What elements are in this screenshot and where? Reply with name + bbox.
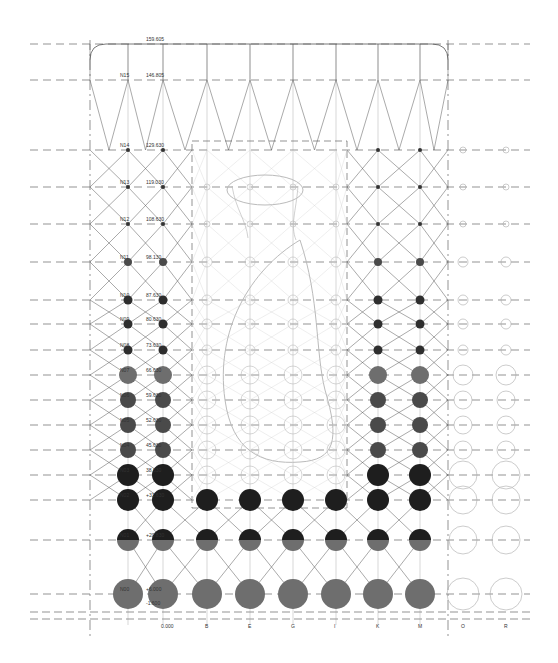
- column-node: [405, 579, 435, 609]
- half-node-bottom: [367, 540, 389, 551]
- level-elevation-label: 146.805: [146, 72, 164, 78]
- column-node: [126, 185, 130, 189]
- level-name-label: N10: [120, 292, 129, 298]
- column-node: [376, 222, 380, 226]
- level-name-label: N04: [120, 442, 129, 448]
- column-node: [416, 346, 425, 355]
- column-node: [325, 489, 347, 511]
- crown-triangle: [250, 80, 293, 150]
- diagrid-lattice: [90, 44, 448, 594]
- column-node: [418, 222, 422, 226]
- level-name-label: N05: [120, 417, 129, 423]
- level-name-label: N06: [120, 392, 129, 398]
- column-node: [374, 320, 383, 329]
- level-elevation-label: 38.630: [146, 467, 162, 473]
- column-node: [196, 489, 218, 511]
- level-name-label: N15: [120, 72, 129, 78]
- column-node: [374, 346, 383, 355]
- architectural-drawing: 159.605N15146.805N14129.630N13119.030N12…: [0, 0, 558, 663]
- column-node: [239, 489, 261, 511]
- level-name-label: N03: [120, 467, 129, 473]
- half-node-top: [282, 529, 304, 540]
- level-elevation-label: 129.630: [146, 142, 164, 148]
- crown-triangle: [90, 80, 128, 150]
- axis-label: R: [504, 623, 508, 629]
- column-node: [370, 417, 386, 433]
- crown-triangle: [420, 80, 448, 150]
- level-elevation-label: 45.630: [146, 442, 162, 448]
- column-node: [418, 185, 422, 189]
- level-name-label: N07: [120, 367, 129, 373]
- level-elevation-label: 159.605: [146, 36, 164, 42]
- level-elevation-label: +20.830: [146, 532, 164, 538]
- crown-triangle: [336, 80, 378, 150]
- void-link: [232, 186, 248, 238]
- level-elevation-label: 59.630: [146, 392, 162, 398]
- half-node-top: [239, 529, 261, 540]
- void-upper: [227, 175, 303, 205]
- level-elevation-label: +31.630: [146, 492, 164, 498]
- level-name-label: N08: [120, 342, 129, 348]
- column-nodes: [113, 147, 522, 610]
- building-outline: [90, 44, 448, 508]
- axis-label: 0.000: [161, 623, 174, 629]
- level-elevation-label: 80.630: [146, 316, 162, 322]
- level-elevation-label: 52.630: [146, 417, 162, 423]
- column-node: [113, 579, 143, 609]
- column-node: [416, 296, 425, 305]
- column-node: [235, 579, 265, 609]
- column-node: [370, 392, 386, 408]
- column-node: [412, 392, 428, 408]
- column-node: [161, 222, 165, 226]
- column-node: [192, 579, 222, 609]
- column-node: [321, 579, 351, 609]
- level-elevation-label: 66.630: [146, 367, 162, 373]
- column-node: [369, 366, 387, 384]
- crown-triangle: [128, 80, 163, 150]
- level-elevation-label: 87.630: [146, 292, 162, 298]
- half-node-bottom: [409, 540, 431, 551]
- column-node: [412, 442, 428, 458]
- axis-label: G: [291, 623, 295, 629]
- level-name-label: N09: [120, 316, 129, 322]
- level-name-label: N13: [120, 179, 129, 185]
- level-name-label: N00: [120, 586, 129, 592]
- level-name-label: N02: [120, 492, 129, 498]
- base-elevation-label: -1.600: [146, 600, 160, 606]
- column-node: [376, 148, 380, 152]
- half-node-top: [409, 529, 431, 540]
- level-name-label: N14: [120, 142, 129, 148]
- column-node: [363, 579, 393, 609]
- level-dashed-lines: [30, 44, 530, 619]
- column-node: [126, 148, 130, 152]
- roof-outline: [90, 44, 448, 60]
- atrium-void: [223, 175, 333, 462]
- column-node: [161, 148, 165, 152]
- crown-triangle: [378, 80, 420, 150]
- level-name-label: N12: [120, 216, 129, 222]
- axis-label: O: [461, 623, 465, 629]
- column-node: [367, 464, 389, 486]
- column-node: [278, 579, 308, 609]
- column-node: [411, 366, 429, 384]
- column-node: [418, 148, 422, 152]
- column-node: [409, 489, 431, 511]
- half-node-bottom: [117, 540, 139, 551]
- column-node: [161, 185, 165, 189]
- column-node: [416, 258, 424, 266]
- half-node-top: [325, 529, 347, 540]
- level-elevation-label: 98.130: [146, 254, 162, 260]
- column-node: [376, 185, 380, 189]
- column-node: [126, 222, 130, 226]
- crown-triangle: [293, 80, 336, 150]
- level-elevation-label: 119.030: [146, 179, 164, 185]
- axis-label: E: [248, 623, 252, 629]
- level-elevation-label: 73.630: [146, 342, 162, 348]
- column-node: [370, 442, 386, 458]
- column-node: [416, 320, 425, 329]
- level-name-label: N11: [120, 254, 129, 260]
- axis-label: K: [376, 623, 380, 629]
- void-lower: [223, 240, 333, 462]
- column-node: [367, 489, 389, 511]
- level-elevation-label: 108.630: [146, 216, 164, 222]
